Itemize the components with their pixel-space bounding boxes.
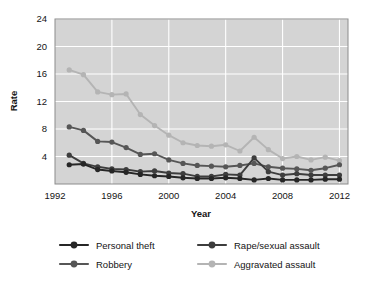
- data-point: [152, 168, 157, 173]
- legend-label: Aggravated assault: [234, 259, 316, 270]
- x-tick-label: 2000: [158, 190, 179, 201]
- data-point: [223, 142, 228, 147]
- data-point: [180, 175, 185, 180]
- data-point: [323, 166, 328, 171]
- data-point: [323, 155, 328, 160]
- legend-marker: [209, 261, 216, 268]
- data-point: [195, 176, 200, 181]
- data-point: [67, 162, 72, 167]
- data-point: [67, 124, 72, 129]
- data-point: [266, 169, 271, 174]
- data-point: [252, 177, 257, 182]
- y-tick-label: 24: [36, 13, 47, 24]
- data-point: [280, 156, 285, 161]
- data-point: [252, 155, 257, 160]
- x-tick-label: 1992: [44, 190, 65, 201]
- legend-label: Rape/sexual assault: [234, 240, 320, 251]
- legend-marker: [209, 242, 216, 249]
- legend-marker: [71, 242, 78, 249]
- data-point: [308, 157, 313, 162]
- data-point: [152, 173, 157, 178]
- data-point: [166, 133, 171, 138]
- data-point: [337, 177, 342, 182]
- data-point: [81, 72, 86, 77]
- data-point: [95, 89, 100, 94]
- line-chart: 4812162024 199219962000200420082012 Rate…: [0, 0, 375, 281]
- data-point: [138, 152, 143, 157]
- legend-marker: [71, 261, 78, 268]
- data-point: [109, 139, 114, 144]
- data-point: [124, 91, 129, 96]
- data-point: [337, 162, 342, 167]
- data-point: [294, 166, 299, 171]
- y-tick-label: 16: [36, 68, 47, 79]
- data-point: [81, 128, 86, 133]
- data-point: [266, 147, 271, 152]
- x-tick-label: 1996: [101, 190, 122, 201]
- data-point: [67, 67, 72, 72]
- data-point: [280, 172, 285, 177]
- data-point: [308, 168, 313, 173]
- data-point: [195, 143, 200, 148]
- x-tick-label: 2012: [329, 190, 350, 201]
- data-point: [252, 135, 257, 140]
- data-point: [294, 154, 299, 159]
- data-point: [152, 123, 157, 128]
- y-tick-label: 12: [36, 96, 47, 107]
- legend-label: Robbery: [96, 259, 132, 270]
- data-point: [124, 170, 129, 175]
- data-point: [209, 176, 214, 181]
- data-point: [294, 177, 299, 182]
- data-point: [67, 153, 72, 158]
- legend-label: Personal theft: [96, 240, 155, 251]
- data-point: [266, 176, 271, 181]
- data-point: [124, 145, 129, 150]
- data-point: [237, 163, 242, 168]
- data-point: [180, 161, 185, 166]
- data-point: [294, 171, 299, 176]
- data-point: [95, 139, 100, 144]
- data-point: [166, 174, 171, 179]
- data-point: [308, 172, 313, 177]
- data-point: [223, 175, 228, 180]
- data-point: [280, 166, 285, 171]
- data-point: [209, 144, 214, 149]
- data-point: [308, 177, 313, 182]
- y-tick-label: 4: [42, 151, 47, 162]
- y-axis-label: Rate: [8, 91, 19, 112]
- x-tick-label: 2004: [215, 190, 236, 201]
- y-tick-label: 20: [36, 41, 47, 52]
- data-point: [237, 176, 242, 181]
- data-point: [152, 151, 157, 156]
- chart-figure: 4812162024 199219962000200420082012 Rate…: [0, 0, 375, 281]
- data-point: [323, 177, 328, 182]
- data-point: [209, 164, 214, 169]
- data-point: [223, 164, 228, 169]
- data-point: [138, 112, 143, 117]
- data-point: [95, 167, 100, 172]
- data-point: [166, 157, 171, 162]
- x-tick-label: 2008: [272, 190, 293, 201]
- data-point: [109, 168, 114, 173]
- x-axis-label: Year: [191, 208, 211, 219]
- data-point: [180, 140, 185, 145]
- data-point: [237, 148, 242, 153]
- data-point: [81, 161, 86, 166]
- data-point: [109, 92, 114, 97]
- data-point: [195, 163, 200, 168]
- data-point: [280, 177, 285, 182]
- y-tick-label: 8: [42, 123, 47, 134]
- data-point: [138, 172, 143, 177]
